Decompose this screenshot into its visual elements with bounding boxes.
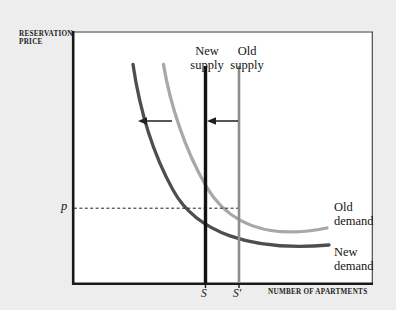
quantity-tick-label-old: S′ [233, 287, 241, 300]
old-supply-label: Old supply [224, 44, 270, 72]
old-demand-label-line1: Old [334, 200, 374, 214]
old-demand-label-line2: demand [334, 214, 374, 228]
new-demand-label-line1: New [334, 245, 374, 259]
old-supply-label-line1: Old [224, 44, 270, 58]
price-tick-label: p [61, 199, 67, 213]
new-demand-label-line2: demand [334, 259, 374, 273]
x-axis-title: NUMBER OF APARTMENTS [268, 288, 367, 296]
new-demand-label: New demand [334, 245, 374, 273]
y-axis-title: New RESERVATION PRICE [19, 30, 73, 46]
economics-supply-demand-figure: New RESERVATION PRICE NUMBER OF APARTMEN… [0, 0, 396, 310]
old-supply-label-line2: supply [224, 58, 270, 72]
y-axis-title-text: RESERVATION PRICE [19, 30, 73, 46]
old-demand-label: Old demand [334, 200, 374, 228]
quantity-tick-label-new: S [201, 287, 207, 300]
